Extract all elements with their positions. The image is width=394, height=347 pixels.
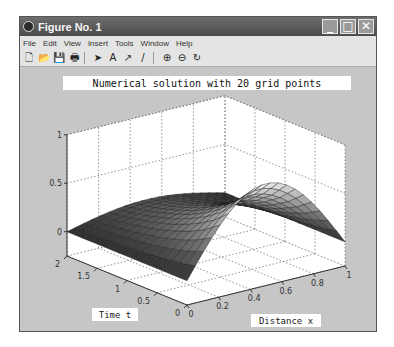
svg-text:0: 0 [175,309,180,318]
surface-plot[interactable]: 00.5100.511.5200.20.40.60.81 Numerical s… [1,1,394,347]
svg-text:1.5: 1.5 [77,272,90,281]
svg-text:2: 2 [55,260,60,269]
svg-text:0.4: 0.4 [248,294,261,303]
svg-text:Distance x: Distance x [259,316,314,326]
svg-text:0.8: 0.8 [311,279,324,288]
svg-text:Time t: Time t [99,310,132,320]
svg-text:0.5: 0.5 [137,297,150,306]
figure-window: Figure No. 1 _ □ ✕ File Edit View Insert… [19,16,377,332]
svg-text:1: 1 [57,131,62,140]
plot-title: Numerical solution with 20 grid points [63,76,351,90]
svg-text:0.6: 0.6 [279,287,292,296]
svg-text:0.2: 0.2 [216,302,229,311]
x-axis-label: Distance x [251,314,321,327]
svg-text:0: 0 [57,228,62,237]
svg-text:0.5: 0.5 [49,179,62,188]
svg-text:Numerical solution with 20 gri: Numerical solution with 20 grid points [93,78,322,89]
svg-text:1: 1 [115,285,120,294]
figure-canvas[interactable]: 00.5100.511.5200.20.40.60.81 Numerical s… [20,67,376,331]
y-axis-label: Time t [92,308,138,321]
svg-text:1: 1 [346,271,351,280]
svg-text:0: 0 [188,310,193,319]
